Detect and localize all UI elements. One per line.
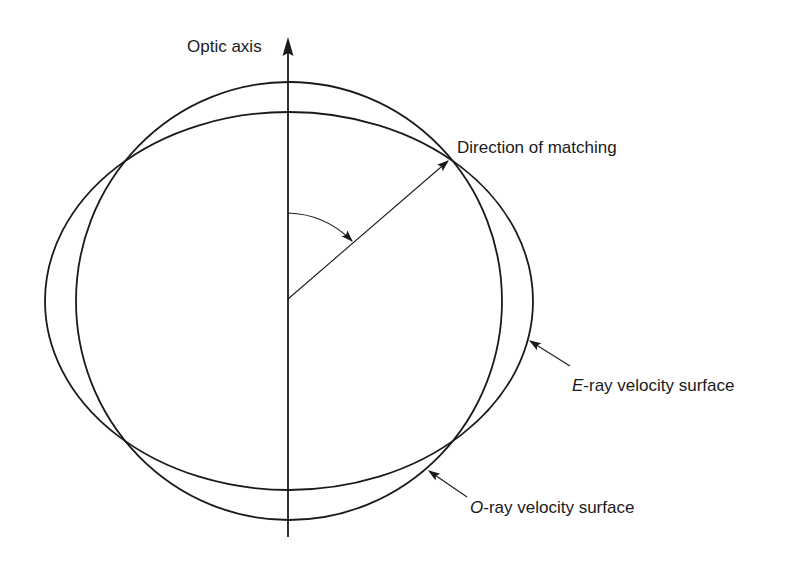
e-ray-pointer-arrow	[530, 341, 570, 366]
o-ray-velocity-surface	[76, 82, 502, 520]
e-ray-velocity-surface-label: E-ray velocity surface	[572, 376, 735, 395]
e-ray-label-prefix: E	[572, 376, 584, 395]
optic-axis-label: Optic axis	[187, 37, 262, 56]
velocity-surface-diagram: Optic axis Direction of matching E-ray v…	[0, 0, 802, 564]
o-ray-label-prefix: O	[470, 498, 483, 517]
o-ray-pointer-arrow	[429, 471, 467, 497]
e-ray-label-rest: -ray velocity surface	[583, 376, 734, 395]
direction-of-matching-label: Direction of matching	[457, 138, 617, 157]
o-ray-velocity-surface-label: O-ray velocity surface	[470, 498, 634, 517]
matching-angle-arc	[288, 213, 352, 241]
direction-of-matching-vector	[288, 161, 448, 299]
o-ray-label-rest: -ray velocity surface	[483, 498, 634, 517]
